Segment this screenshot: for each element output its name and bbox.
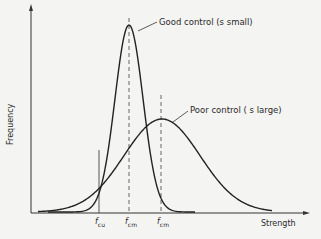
diagram-canvas [0,0,321,239]
good-control-label: Good control (s small) [159,17,253,27]
f-cm-good-label: fcm [125,217,137,228]
f-cm-poor-label: fcm [157,217,169,228]
good-control-leader [138,22,157,31]
x-axis-label: Strength [261,219,296,228]
poor-control-leader [173,111,188,122]
f-cu-label: fcu [95,217,105,228]
y-axis-arrow-icon [29,4,33,11]
x-axis-arrow-icon [303,211,310,215]
poor-control-curve [38,119,272,212]
y-axis-label: Frequency [6,104,15,145]
poor-control-label: Poor control ( s large) [190,105,282,115]
good-control-curve [48,25,195,212]
